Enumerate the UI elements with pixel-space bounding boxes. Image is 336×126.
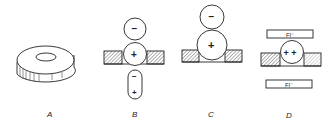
plus-symbol: +	[131, 49, 137, 60]
panel-label-b: B	[132, 110, 138, 119]
diagram-canvas: A − + − + B − + C + + Fl⁻ Fl⁻ D	[0, 0, 336, 126]
slab-left	[182, 50, 199, 62]
panel-a-disk	[17, 46, 75, 82]
bottom-fluoride-label: Fl⁻	[285, 82, 293, 88]
minus-symbol: −	[209, 11, 215, 22]
slab-right	[147, 51, 164, 64]
slab-left	[261, 53, 280, 66]
panel-label-c: C	[208, 110, 214, 119]
panel-label-a: A	[46, 110, 52, 119]
top-fluoride-label: Fl⁻	[286, 32, 294, 38]
capsule-minus-symbol: −	[132, 72, 137, 81]
minus-symbol: −	[132, 23, 138, 34]
plus-symbol: +	[208, 39, 214, 51]
panel-d	[261, 30, 321, 88]
capsule-plus-symbol: +	[132, 88, 137, 97]
slab-right	[225, 50, 242, 62]
slab-left	[104, 51, 122, 64]
panel-label-d: D	[286, 111, 292, 120]
double-plus-symbol: + +	[284, 48, 297, 58]
